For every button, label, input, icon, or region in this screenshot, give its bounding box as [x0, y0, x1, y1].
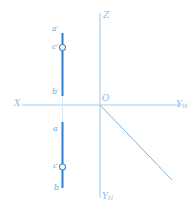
point-marker-c-prime [60, 45, 66, 51]
axis-label-z: Z [103, 11, 109, 20]
point-label-b-prime: b′ [52, 88, 59, 96]
axis-label-yw-subscript: W [182, 102, 188, 109]
point-label-b: b [54, 184, 59, 192]
axis-label-x: X [14, 99, 20, 108]
point-label-a: a [53, 125, 58, 133]
point-label-c-prime: c′ [52, 43, 58, 51]
projection-diagram [0, 0, 196, 214]
bisector-line-45deg [100, 105, 172, 180]
point-label-a-prime: a′ [52, 25, 59, 33]
point-label-c: c [53, 162, 57, 170]
diagram-canvas: X Z YW YH O a′ c′ b′ a c b [0, 0, 196, 214]
origin-label: O [102, 94, 109, 103]
axis-label-yh-subscript: H [108, 194, 113, 201]
axis-label-yh: YH [102, 192, 113, 201]
axis-label-yw: YW [176, 100, 188, 109]
point-marker-c [60, 164, 66, 170]
